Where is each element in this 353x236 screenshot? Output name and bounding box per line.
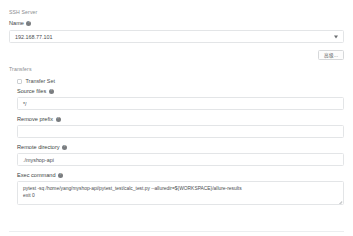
exec-command-wrapper: pytest -sq /home/yang/myshop-api/pytest_… (0, 181, 353, 205)
remove-prefix-input-wrapper (0, 125, 353, 138)
help-icon[interactable] (56, 117, 61, 122)
exec-command-label: Exec command (17, 171, 56, 179)
help-icon[interactable] (58, 173, 63, 178)
ssh-server-section-label: SSH Server (9, 9, 344, 16)
ssh-server-section: SSH Server Name (0, 0, 353, 27)
exec-command-textarea[interactable]: pytest -sq /home/yang/myshop-api/pytest_… (17, 181, 344, 205)
ssh-server-name-select[interactable]: 192.168.77.101 (9, 30, 344, 43)
remove-prefix-label: Remove prefix (17, 115, 53, 123)
remote-directory-input-wrapper: ./myshop-api (0, 153, 353, 166)
transfers-section-label: Transfers (9, 66, 344, 73)
exec-command-line-2: exit 0 (23, 192, 338, 199)
remote-directory-label-row: Remote directory (0, 143, 353, 151)
source-files-label: Source files (17, 87, 46, 95)
name-field-label-row: Name (9, 19, 344, 27)
source-files-label-row: Source files (0, 87, 353, 95)
advanced-button[interactable]: 高级... (318, 50, 344, 60)
exec-command-line-1: pytest -sq /home/yang/myshop-api/pytest_… (23, 185, 338, 192)
help-icon[interactable] (62, 145, 67, 150)
remote-directory-input[interactable]: ./myshop-api (17, 153, 344, 166)
remote-directory-value: ./myshop-api (23, 157, 54, 163)
ssh-publisher-config-panel: SSH Server Name 192.168.77.101 高级... Tra… (0, 0, 353, 236)
transfer-set-row: Transfer Set (0, 78, 353, 84)
source-files-input-wrapper: */ (0, 97, 353, 110)
help-icon[interactable] (49, 89, 54, 94)
name-field-label: Name (9, 19, 24, 27)
source-files-value: */ (23, 101, 27, 107)
checkbox-unchecked-icon[interactable] (17, 79, 22, 84)
transfer-set-label: Transfer Set (26, 78, 55, 84)
transfers-section: Transfers (0, 66, 353, 73)
ssh-server-name-value: 192.168.77.101 (15, 34, 52, 40)
transfer-set-checkbox-row[interactable]: Transfer Set (17, 78, 344, 84)
panel-bottom-divider (9, 231, 344, 232)
remove-prefix-input[interactable] (17, 125, 344, 138)
exec-command-label-row: Exec command (0, 171, 353, 179)
chevron-down-icon[interactable] (334, 35, 338, 38)
help-icon[interactable] (26, 21, 31, 26)
resize-grip-icon[interactable] (337, 198, 342, 203)
advanced-button-row: 高级... (0, 50, 353, 60)
remote-directory-label: Remote directory (17, 143, 60, 151)
source-files-input[interactable]: */ (17, 97, 344, 110)
remove-prefix-label-row: Remove prefix (0, 115, 353, 123)
name-select-wrapper: 192.168.77.101 (0, 30, 353, 43)
